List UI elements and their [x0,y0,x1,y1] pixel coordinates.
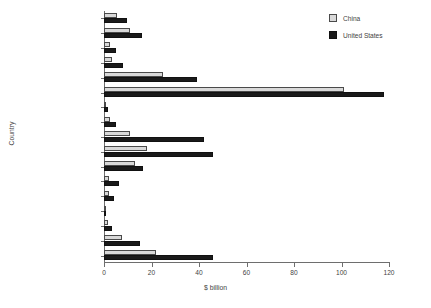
bar-china [104,191,109,196]
bar-united-states [104,33,142,38]
legend-item-us: United States [329,31,383,39]
bar-group: France [104,70,389,85]
plot-area: AustriaBelgium-LuxembourgCzech RepublicD… [104,11,389,263]
bar-group: Poland [104,174,389,189]
bar-group: Netherlands [104,159,389,174]
bar-china [104,235,122,240]
bar-united-states [104,77,197,82]
x-axis-tick [342,263,343,267]
bar-united-states [104,226,112,231]
bar-group: Ireland [104,130,389,145]
x-axis-tick-label: 100 [322,269,362,276]
x-axis-tick-label: 0 [84,269,124,276]
legend-swatch-icon [329,14,337,22]
x-axis-title: $ billion [0,284,431,291]
bar-china [104,161,135,166]
bar-united-states [104,137,204,142]
bar-united-states [104,196,114,201]
bar-group: Germany [104,85,389,100]
bar-united-states [104,92,384,97]
bar-group: Spain [104,233,389,248]
bar-china [104,146,147,151]
bar-united-states [104,122,116,127]
x-axis-tick-label: 120 [369,269,409,276]
bar-united-states [104,48,116,53]
x-axis-tick [104,263,105,267]
x-axis-tick-label: 60 [227,269,267,276]
bar-united-states [104,181,119,186]
bar-china [104,13,117,18]
bar-china [104,72,163,77]
bar-china [104,206,106,211]
x-axis-tick-label: 20 [132,269,172,276]
x-axis-tick [294,263,295,267]
bar-united-states [104,18,127,23]
x-axis-tick [199,263,200,267]
bar-group: Slovakia [104,219,389,234]
bar-china [104,87,344,92]
bar-united-states [104,166,143,171]
chart-legend: ChinaUnited States [329,14,383,48]
bar-china [104,57,112,62]
bar-group: Italy [104,144,389,159]
legend-label: China [343,15,360,22]
bar-group: Portugal [104,189,389,204]
bar-united-states [104,255,213,260]
y-axis-title: Country [8,104,15,164]
bar-china [104,102,106,107]
bar-china [104,250,156,255]
bar-united-states [104,63,123,68]
x-axis-tick [389,263,390,267]
legend-swatch-icon [329,31,337,39]
bar-group: Hungary [104,115,389,130]
bar-group: Serbia [104,204,389,219]
x-axis-tick [152,263,153,267]
bar-group: Denmark [104,55,389,70]
bar-china [104,176,109,181]
x-axis-tick-label: 40 [179,269,219,276]
legend-item-china: China [329,14,383,22]
bar-united-states [104,107,108,112]
bar-china [104,42,110,47]
bar-china [104,117,110,122]
bar-united-states [104,152,213,157]
bar-china [104,28,130,33]
bar-chart: AustriaBelgium-LuxembourgCzech RepublicD… [0,0,431,308]
bar-united-states [104,211,106,216]
bar-group: United Kingdom [104,248,389,263]
bar-china [104,220,108,225]
bar-united-states [104,241,140,246]
x-axis-tick-label: 80 [274,269,314,276]
bar-china [104,131,130,136]
bar-group: Greece [104,100,389,115]
legend-label: United States [343,32,383,39]
x-axis-tick [247,263,248,267]
